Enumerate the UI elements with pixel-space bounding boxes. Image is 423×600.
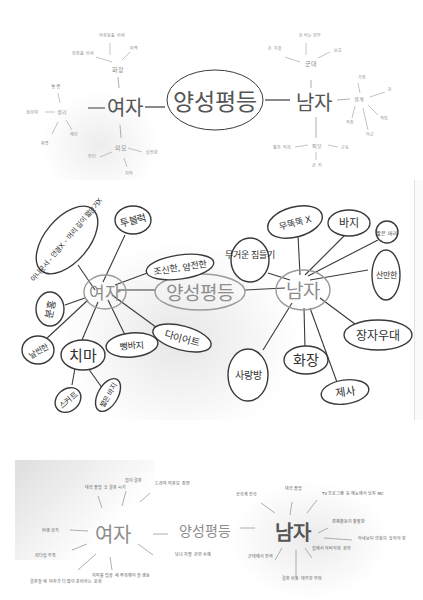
- note: 드라마 미혼모 장면: [155, 480, 190, 486]
- note: 경제활동이 활발함: [332, 518, 365, 524]
- note: 대학 졸업 후 결혼 시기: [85, 484, 126, 490]
- leaf: 직장: [346, 119, 354, 125]
- men-node: 남자: [296, 91, 332, 115]
- leaf: 돈 지출: [268, 45, 281, 51]
- leaf: 생리대: [26, 109, 38, 115]
- leaf: 돈 버는 의무: [299, 32, 322, 38]
- mind-map-notes: 여자 양성평등 남자 대학 졸업 후 결혼 시기 집이 결혼 드라마 미혼모 장…: [0, 420, 423, 592]
- men-sub-right: 생계: [354, 96, 364, 103]
- leaf: 여성용품 비싸: [99, 32, 124, 38]
- note: 치마를 입을 때 주의해야 할 행동: [92, 572, 150, 578]
- mind-map-3-drawing: 여자 양성평등 남자 대학 졸업 후 결혼 시기 집이 결혼 드라마 미혼모 장…: [0, 420, 423, 592]
- leaf: 야근: [366, 131, 374, 137]
- men-node: 남자: [286, 280, 320, 302]
- leaf: 큰 키: [312, 162, 321, 168]
- men-branch-heavy: 무거운 짐들기: [225, 250, 276, 260]
- men-branch-pants: 바지: [339, 217, 359, 230]
- leaf: 통증: [51, 83, 61, 89]
- leaf: 미백: [130, 45, 138, 51]
- note: 남녀 차별 관련 사례: [175, 551, 211, 557]
- mind-map-2-drawing: 양성평등 여자 아나운서 - 안경X - 머리 길이 짧은거X 투블럭 조신한,…: [0, 180, 423, 420]
- women-sub-left: 생리: [57, 109, 67, 116]
- center-topic: 양성평등: [166, 282, 234, 304]
- note: 공학계 진학: [236, 491, 257, 497]
- note: 결혼할 때 여자가 더 많이 준비하는 문화: [30, 578, 102, 584]
- note: 집이 결혼: [125, 477, 142, 483]
- leaf: 날씬함: [146, 149, 158, 155]
- note: TV 프로그램 등 예능에서 남자 MC: [321, 490, 384, 496]
- women-node: 여자: [89, 283, 121, 303]
- note: 여행 금지: [42, 527, 59, 533]
- men-branch-sarangbang: 사랑방: [235, 370, 262, 381]
- leaf: 뷰티: [88, 153, 96, 159]
- women-branch-skirt: 치마: [69, 347, 97, 365]
- leaf: 가장: [358, 74, 366, 80]
- mind-map-marker: 양성평등 여자 아나운서 - 안경X - 머리 길이 짧은거X 투블럭 조신한,…: [0, 180, 423, 420]
- women-node: 여자: [95, 523, 131, 547]
- leaf: 치마: [125, 170, 133, 176]
- note: 결혼 비용 대부분 부담: [282, 575, 322, 581]
- leaf: 화장품 비싸: [72, 50, 93, 56]
- note: 대학 졸업: [285, 485, 302, 491]
- men-branch-distracted: 산만한: [376, 270, 398, 280]
- leaf: 보호: [334, 48, 342, 53]
- mind-map-pencil: 양성평등 여자 남자 화장 화장품 비싸 여성용품 비싸 미백 생리 통증 생리…: [0, 0, 423, 180]
- men-branch-makeup: 화장: [293, 352, 319, 368]
- note: 군대에서 전역: [248, 553, 273, 559]
- note: 아내보다 연봉이 높아야 함: [358, 535, 406, 541]
- leaf: 돈: [388, 87, 392, 92]
- leaf: 예민: [70, 131, 78, 137]
- mind-map-1-drawing: 양성평등 여자 남자 화장 화장품 비싸 여성용품 비싸 미백 생리 통증 생리…: [0, 0, 423, 180]
- women-node: 여자: [107, 96, 143, 120]
- leaf: 짜증: [41, 140, 49, 146]
- men-node: 남자: [275, 521, 312, 545]
- women-sub-bottom: 외모: [115, 144, 127, 152]
- men-sub-top: 군대: [305, 60, 317, 68]
- leaf: 책임: [380, 115, 388, 121]
- men-branch-shorthair: 짧은 머리: [376, 230, 398, 237]
- men-branch-eldest-son: 장자우대: [356, 329, 400, 343]
- center-topic: 양성평등: [179, 523, 231, 539]
- note: 리더십 부족: [35, 552, 56, 558]
- center-topic: 양성평등: [173, 89, 257, 115]
- men-sub-bottom: 외모: [312, 143, 322, 150]
- women-sub-top: 화장: [112, 66, 124, 74]
- note: 집에서 아버지의 권위: [312, 545, 351, 551]
- women-branch-bellbottom: 뻥바지: [120, 340, 145, 352]
- men-branch-ancestral-rites: 제사: [334, 385, 356, 401]
- leaf: 근육: [341, 145, 349, 150]
- leaf: 짧은 머리: [273, 144, 290, 150]
